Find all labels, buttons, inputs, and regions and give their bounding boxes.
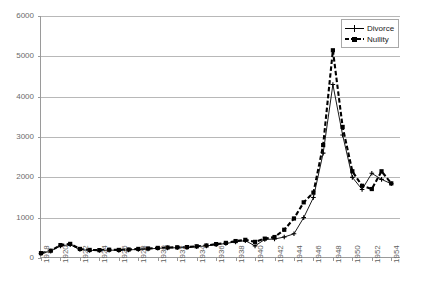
data-point (311, 195, 316, 200)
x-tick-label: 1918 (43, 245, 51, 263)
data-point (341, 125, 345, 129)
x-tick-label: 1934 (199, 245, 207, 263)
x-tick-label: 1936 (218, 245, 226, 263)
x-tick-label: 1930 (160, 245, 168, 263)
x-tick-label: 1926 (121, 245, 129, 263)
data-point (321, 143, 325, 147)
y-tick-label: 2000 (0, 173, 34, 181)
legend-swatch-divorce-icon (345, 24, 364, 33)
y-tick-label: 0 (0, 254, 34, 262)
x-tick-label: 1940 (257, 245, 265, 263)
data-point (263, 237, 267, 241)
x-tick-label: 1950 (354, 245, 362, 263)
data-point (253, 240, 257, 244)
data-point (301, 215, 306, 220)
x-tick-label: 1948 (335, 245, 343, 263)
x-tick-label: 1924 (101, 245, 109, 263)
data-point (311, 191, 315, 195)
data-point (389, 181, 393, 185)
y-tick-label: 5000 (0, 52, 34, 60)
series-line-divorce (41, 85, 391, 254)
x-tick-label: 1942 (277, 245, 285, 263)
series-layer (41, 16, 401, 258)
chart-container: 0100020003000400050006000 19181920192219… (0, 0, 423, 307)
data-point (360, 184, 364, 188)
data-point (379, 177, 384, 182)
legend-item-nullity: Nullity (345, 34, 394, 44)
x-tick-label: 1932 (179, 245, 187, 263)
data-point (243, 238, 247, 242)
series-markers-nullity (39, 48, 393, 255)
x-tick-label: 1920 (62, 245, 70, 263)
data-point (370, 171, 375, 176)
plot-area (40, 16, 400, 258)
data-point (379, 169, 383, 173)
data-point (331, 48, 335, 52)
y-tick-label: 1000 (0, 214, 34, 222)
x-tick-label: 1946 (315, 245, 323, 263)
data-point (350, 169, 354, 173)
x-tick-label: 1954 (393, 245, 401, 263)
chart-legend: Divorce Nullity (341, 19, 399, 48)
y-tick-label: 3000 (0, 133, 34, 141)
x-tick-label: 1922 (82, 245, 90, 263)
data-point (233, 239, 237, 243)
data-point (370, 187, 374, 191)
x-tick-label: 1952 (374, 245, 382, 263)
y-tick-label: 6000 (0, 12, 34, 20)
x-tick-label: 1944 (296, 245, 304, 263)
x-tick-label: 1938 (238, 245, 246, 263)
data-point (272, 235, 276, 239)
legend-label-nullity: Nullity (367, 35, 389, 44)
data-point (292, 216, 296, 220)
legend-swatch-nullity-icon (345, 35, 364, 44)
legend-item-divorce: Divorce (345, 23, 394, 33)
x-tick-label: 1928 (140, 245, 148, 263)
y-tick-label: 4000 (0, 93, 34, 101)
series-line-nullity (41, 50, 391, 253)
data-point (302, 200, 306, 204)
data-point (282, 235, 287, 240)
data-point (292, 232, 297, 237)
data-point (331, 82, 336, 87)
legend-label-divorce: Divorce (367, 24, 394, 33)
data-point (282, 228, 286, 232)
